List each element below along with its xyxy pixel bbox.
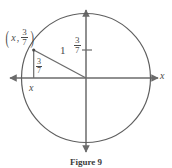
point-y-numerator: 3 <box>21 28 28 37</box>
y-axis-tick-fraction: 3 7 <box>74 36 81 55</box>
plotted-point <box>32 48 35 51</box>
close-paren: ) <box>30 28 33 47</box>
y-tick-numerator: 3 <box>74 36 81 45</box>
open-paren: ( <box>5 28 8 47</box>
unit-circle-figure: ( x , 3 7 ) 1 3 7 3 7 x x Figure 9 <box>0 0 172 168</box>
point-y-fraction: 3 7 <box>21 28 28 47</box>
vertical-leg-fraction: 3 7 <box>36 58 42 75</box>
leg-numerator: 3 <box>36 58 42 66</box>
point-x-value: x <box>11 33 15 43</box>
unit-circle-diagram <box>0 0 172 168</box>
x-axis-label: x <box>160 71 164 81</box>
radius-length-label: 1 <box>60 45 66 56</box>
point-y-denominator: 7 <box>21 37 28 47</box>
point-coordinate-label: ( x , 3 7 ) <box>4 28 35 47</box>
y-tick-denominator: 7 <box>74 45 81 55</box>
leg-denominator: 7 <box>36 66 42 75</box>
horizontal-leg-label: x <box>29 83 33 93</box>
y-axis-tick-label: 3 7 <box>74 36 81 55</box>
vertical-leg-label: 3 7 <box>36 57 42 75</box>
figure-caption: Figure 9 <box>0 158 172 167</box>
coordinate-comma: , <box>17 33 20 43</box>
